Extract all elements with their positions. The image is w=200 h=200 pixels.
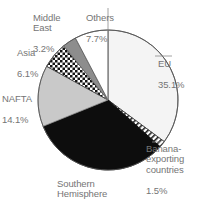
slice-label-middle-east-name: Middle East	[33, 13, 60, 34]
slice-label-asia: Asia 6.1%	[17, 37, 38, 90]
slice-label-asia-name: Asia	[17, 48, 38, 59]
slice-label-southern-hemisphere-name: Southern Hemisphere	[57, 179, 107, 200]
slice-label-eu: EU 35.1%	[158, 48, 184, 101]
slice-label-nafta: NAFTA 14.1%	[2, 83, 32, 136]
pie-chart: Others 7.7% Middle East 3.2% Asia 6.1% N…	[0, 0, 200, 199]
slice-label-eu-name: EU	[158, 59, 184, 70]
slice-label-banana-exporting: Banana- exporting countries 1.5%	[146, 133, 184, 199]
slice-label-nafta-value: 14.1%	[2, 115, 32, 126]
slice-label-others-name: Others	[86, 13, 114, 24]
slice-label-banana-exporting-value: 1.5%	[146, 186, 184, 197]
slice-label-banana-exporting-name: Banana- exporting countries	[146, 144, 184, 176]
slice-label-asia-value: 6.1%	[17, 69, 38, 80]
slice-label-others-value: 7.7%	[86, 34, 114, 45]
slice-label-others: Others 7.7%	[86, 2, 114, 55]
slice-label-nafta-name: NAFTA	[2, 94, 32, 105]
slice-label-eu-value: 35.1%	[158, 80, 184, 91]
slice-label-southern-hemisphere: Southern Hemisphere 32.2%	[57, 168, 107, 199]
